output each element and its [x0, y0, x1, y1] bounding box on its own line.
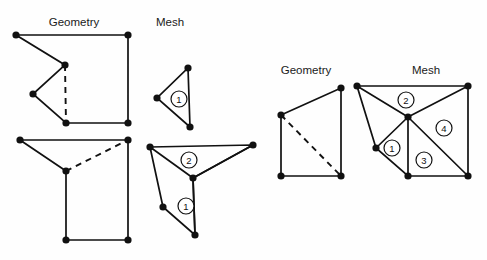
panel-geometry-top-left-outline	[16, 35, 128, 123]
panel-mesh-top-left-region-label-text-0: 1	[176, 94, 181, 105]
panel-mesh-bottom-left-region-label-1: 1	[178, 198, 194, 214]
panel-mesh-bottom-left-region-label-text-1: 1	[183, 201, 188, 212]
panel-mesh-right-vertex-5	[404, 113, 411, 120]
panel-geometry-right	[277, 84, 344, 179]
panel-mesh-top-left-region-label-0: 1	[171, 91, 187, 107]
panel-geometry-top-left-vertex-3	[62, 119, 69, 126]
panel-mesh-bottom-left-vertex-3	[191, 231, 198, 238]
panel-mesh-right-vertex-4	[372, 144, 379, 151]
panel-mesh-right-region-label-text-1: 4	[441, 123, 446, 134]
panel-mesh-bottom-left-vertex-4	[159, 203, 166, 210]
panel-geometry-right-vertex-0	[277, 111, 284, 118]
caption-geometry-left: Geometry	[49, 16, 100, 28]
panel-geometry-bottom-left-vertex-2	[124, 236, 131, 243]
diagram-canvas: GeometryMeshGeometryMesh 1212413	[0, 0, 487, 260]
panel-mesh-top-left: 1	[153, 64, 193, 130]
panel-geometry-top-left-vertex-5	[61, 61, 68, 68]
panel-mesh-bottom-left-vertex-1	[249, 141, 256, 148]
panel-mesh-right-region-label-0: 2	[398, 92, 414, 108]
panel-geometry-right-vertex-2	[337, 172, 344, 179]
panel-mesh-right-vertex-1	[464, 82, 471, 89]
panel-geometry-top-left	[12, 31, 131, 126]
panel-geometry-bottom-left-vertex-4	[62, 167, 69, 174]
panel-mesh-bottom-left-edge-1	[193, 145, 253, 178]
panel-mesh-bottom-left: 21	[146, 141, 256, 238]
panel-mesh-right-vertex-0	[353, 82, 360, 89]
panel-mesh-right-region-label-text-0: 2	[403, 95, 408, 106]
panel-mesh-right-vertex-3	[404, 172, 411, 179]
captions-layer: GeometryMeshGeometryMesh	[49, 16, 440, 76]
panel-geometry-top-left-vertex-2	[124, 119, 131, 126]
panel-geometry-top-left-vertex-0	[12, 31, 19, 38]
panel-mesh-top-left-vertex-2	[153, 94, 160, 101]
panel-geometry-bottom-left	[16, 136, 131, 243]
panel-geometry-right-vertex-3	[277, 172, 284, 179]
panel-mesh-top-left-vertex-1	[186, 123, 193, 130]
panel-geometry-top-left-dashed-edge-0	[65, 65, 66, 123]
panel-geometry-bottom-left-vertex-1	[124, 136, 131, 143]
panel-geometry-right-outline	[281, 88, 341, 176]
caption-geometry-right: Geometry	[281, 64, 332, 76]
panel-mesh-right-region-label-3: 3	[416, 152, 432, 168]
panel-geometry-bottom-left-dashed-edge-0	[66, 140, 128, 171]
panel-mesh-bottom-left-region-label-0: 2	[181, 152, 197, 168]
geometry-mesh-diagram: GeometryMeshGeometryMesh 1212413	[0, 0, 487, 260]
panel-mesh-bottom-left-vertex-2	[189, 174, 196, 181]
panel-mesh-right-region-label-text-3: 3	[421, 155, 426, 166]
panel-geometry-top-left-vertex-4	[29, 90, 36, 97]
caption-mesh-right: Mesh	[412, 64, 440, 76]
panel-mesh-right-vertex-2	[464, 172, 471, 179]
panel-mesh-bottom-left-vertex-0	[146, 143, 153, 150]
panel-geometry-bottom-left-vertex-0	[16, 136, 23, 143]
panel-mesh-top-left-vertex-0	[184, 64, 191, 71]
panel-mesh-bottom-left-region-label-text-0: 2	[186, 155, 191, 166]
panel-geometry-bottom-left-outline	[20, 140, 128, 240]
panel-mesh-right: 2413	[353, 82, 471, 179]
panel-mesh-right-region-label-2: 1	[384, 140, 400, 156]
panel-mesh-right-region-label-text-2: 1	[389, 143, 394, 154]
panel-geometry-right-vertex-1	[337, 84, 344, 91]
caption-mesh-left: Mesh	[156, 16, 184, 28]
panel-geometry-bottom-left-vertex-3	[62, 236, 69, 243]
panels-layer: 1212413	[12, 31, 471, 243]
panel-geometry-top-left-vertex-1	[124, 31, 131, 38]
panel-mesh-right-edge-1	[408, 86, 468, 117]
panel-mesh-right-region-label-1: 4	[436, 120, 452, 136]
panel-geometry-right-dashed-edge-0	[281, 115, 341, 176]
